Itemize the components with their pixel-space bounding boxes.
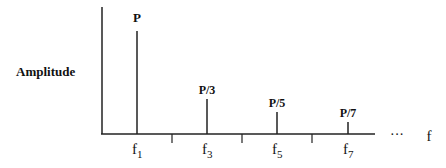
spike-label-p: P xyxy=(133,10,141,25)
freq-label-f5: f5 xyxy=(272,141,283,160)
spike-label-p5: P/5 xyxy=(269,96,286,110)
x-axis-label: f xyxy=(427,128,432,144)
freq-label-f7: f7 xyxy=(343,141,354,160)
spectrum-diagram: P P/3 P/5 P/7 f1 f3 f5 f7 ··· f Amplitud… xyxy=(0,0,446,168)
spike-label-p7: P/7 xyxy=(340,106,357,120)
freq-label-f1: f1 xyxy=(132,141,143,160)
freq-label-f3: f3 xyxy=(202,141,213,160)
spike-label-p3: P/3 xyxy=(199,83,216,97)
continuation-ellipsis: ··· xyxy=(390,127,404,142)
y-axis-label: Amplitude xyxy=(16,64,75,79)
